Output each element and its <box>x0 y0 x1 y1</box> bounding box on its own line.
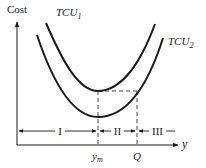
tcu2-label: TCU2 <box>168 35 193 50</box>
diagram-canvas: Cost y TCU1 TCU2 I II III ym Q <box>0 0 206 168</box>
x-axis-label: y <box>181 137 188 151</box>
region-i-label: I <box>58 125 62 137</box>
tcu1-label: TCU1 <box>56 6 81 21</box>
cost-curves-diagram: Cost y TCU1 TCU2 I II III ym Q <box>0 0 206 168</box>
ym-label: ym <box>91 150 103 164</box>
region-ii-label: II <box>114 125 122 137</box>
q-label: Q <box>133 150 141 162</box>
y-axis-label: Cost <box>7 3 27 15</box>
tcu1-curve <box>46 23 155 91</box>
region-iii-label: III <box>152 125 163 137</box>
